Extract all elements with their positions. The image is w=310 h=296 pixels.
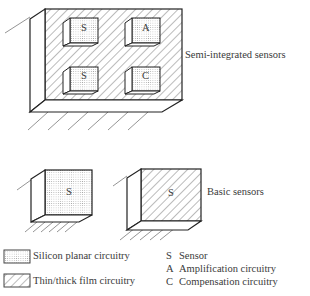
chip-letter: S	[81, 22, 87, 33]
chip-letter: A	[142, 22, 150, 33]
basic-sensor-letter: S	[168, 187, 174, 198]
chip-letter: C	[142, 70, 149, 81]
legend-swatch-hatched	[4, 274, 30, 287]
legend-label-silicon: Silicon planar circuitry	[33, 250, 130, 261]
chip-letter: S	[81, 70, 87, 81]
basic-sensor-silicon	[17, 170, 92, 232]
key-row-amplification: AAmplification circuitry	[166, 263, 276, 274]
basic-sensor-letter: S	[66, 186, 72, 197]
semi-integrated-label: Semi-integrated sensors	[185, 49, 286, 60]
basic-sensor-film	[113, 169, 201, 240]
basic-sensors-label: Basic sensors	[207, 186, 264, 197]
key-row-compensation: CCompensation circuitry	[166, 276, 278, 287]
legend-swatch-dotted	[4, 250, 30, 263]
legend-label-film: Thin/thick film circuitry	[33, 275, 135, 286]
key-row-sensor: SSensor	[166, 250, 208, 261]
